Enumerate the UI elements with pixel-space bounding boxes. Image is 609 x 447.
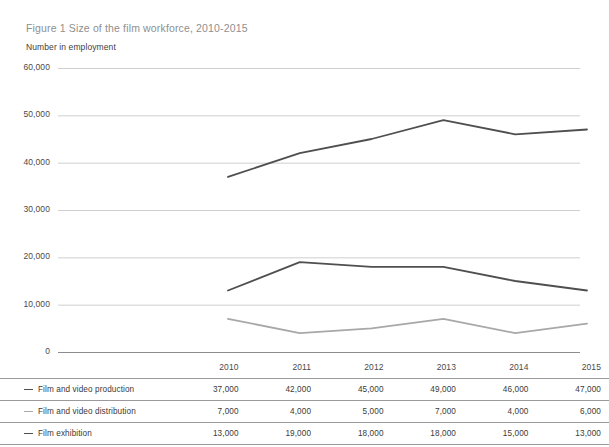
table-cell: 47,000: [544, 379, 609, 401]
table-row: Film and video distribution7,0004,0005,0…: [0, 401, 609, 423]
line-chart: 60,00050,00040,00030,00020,00010,0000: [0, 0, 609, 360]
series-line-0: [228, 120, 587, 177]
table-cell: 15,000: [472, 423, 544, 445]
table-column-header: 2013: [400, 356, 472, 379]
table-cell: 49,000: [400, 379, 472, 401]
y-axis-tick-label: 0: [4, 346, 50, 356]
table-column-header: 2011: [255, 356, 327, 379]
table-cell: 46,000: [472, 379, 544, 401]
table-cell: 18,000: [327, 423, 399, 445]
table-cell: 13,000: [544, 423, 609, 445]
table-body: Film and video production37,00042,00045,…: [0, 379, 609, 445]
series-legend-2: Film exhibition: [0, 423, 182, 445]
table-corner-cell: [0, 356, 182, 379]
table-column-header: 2014: [472, 356, 544, 379]
series-swatch-icon: [24, 433, 33, 434]
series-legend-1: Film and video distribution: [0, 401, 182, 423]
series-label: Film and video distribution: [38, 407, 136, 416]
series-legend-0: Film and video production: [0, 379, 182, 401]
table-cell: 7,000: [400, 401, 472, 423]
y-axis-tick-label: 50,000: [4, 109, 50, 119]
table-column-header: 2012: [327, 356, 399, 379]
chart-canvas: [0, 0, 609, 360]
series-line-2: [228, 262, 587, 290]
series-label: Film and video production: [38, 385, 134, 394]
data-table: 201020112012201320142015 Film and video …: [0, 356, 609, 445]
table-cell: 18,000: [400, 423, 472, 445]
series-label: Film exhibition: [38, 429, 92, 438]
table-header-row: 201020112012201320142015: [0, 356, 609, 379]
table-row: Film and video production37,00042,00045,…: [0, 379, 609, 401]
table-row: Film exhibition13,00019,00018,00018,0001…: [0, 423, 609, 445]
table-cell: 4,000: [472, 401, 544, 423]
y-axis-tick-label: 30,000: [4, 204, 50, 214]
table-cell: 42,000: [255, 379, 327, 401]
figure-page: Figure 1 Size of the film workforce, 201…: [0, 0, 609, 447]
table-cell: 19,000: [255, 423, 327, 445]
table-cell: 7,000: [182, 401, 254, 423]
y-axis-tick-label: 10,000: [4, 299, 50, 309]
table-cell: 6,000: [544, 401, 609, 423]
table-cell: 4,000: [255, 401, 327, 423]
series-swatch-icon: [24, 389, 33, 390]
table-column-header: 2015: [544, 356, 609, 379]
table-cell: 5,000: [327, 401, 399, 423]
y-axis-tick-label: 60,000: [4, 62, 50, 72]
chart-series-group: [228, 120, 587, 333]
table-column-header: 2010: [182, 356, 254, 379]
series-line-1: [228, 319, 587, 333]
table-cell: 45,000: [327, 379, 399, 401]
chart-gridlines: [58, 69, 580, 353]
y-axis-tick-label: 40,000: [4, 157, 50, 167]
series-swatch-icon: [24, 411, 33, 412]
table-cell: 13,000: [182, 423, 254, 445]
y-axis-tick-label: 20,000: [4, 251, 50, 261]
table-cell: 37,000: [182, 379, 254, 401]
